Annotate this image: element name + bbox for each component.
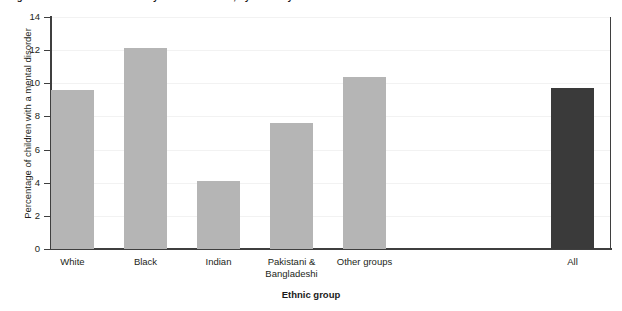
gridline	[52, 17, 610, 18]
bar	[197, 181, 240, 249]
bar	[551, 88, 594, 249]
y-axis-title: Percentage of children with a mental dis…	[22, 4, 33, 244]
bar	[51, 90, 94, 249]
bar-chart: 02468101214 WhiteBlackIndianPakistani &B…	[0, 0, 622, 311]
x-axis-label-line: Other groups	[320, 256, 410, 268]
x-axis-label-line: All	[528, 256, 618, 268]
x-axis-label-line: Bangladeshi	[247, 268, 337, 280]
x-axis-label: All	[528, 256, 618, 268]
y-axis-tick-label: 0	[20, 244, 40, 254]
bar	[124, 48, 167, 249]
bar	[343, 77, 386, 249]
x-axis-label: Other groups	[320, 256, 410, 268]
x-axis-title: Ethnic group	[0, 289, 622, 300]
bar	[270, 123, 313, 249]
